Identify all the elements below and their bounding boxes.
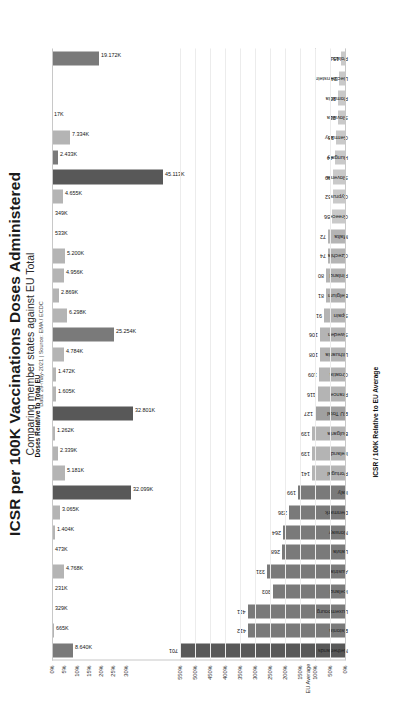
plot-left-border	[52, 659, 345, 660]
icsr-bar-cell: 49	[175, 167, 345, 187]
doses-bar[interactable]: 5.181K	[52, 465, 65, 479]
doses-bar-cell: 25.254K	[52, 325, 170, 345]
icsr-bar-cell: 236	[175, 502, 345, 522]
country-tick: Greece	[347, 206, 395, 226]
doses-bar[interactable]: 25.254K	[52, 327, 114, 341]
doses-bar-value-label: 4.768K	[66, 566, 83, 571]
doses-bar-value-label: 349K	[55, 211, 68, 216]
doses-bar-cell: 3.065K	[52, 502, 170, 522]
country-tick: France	[347, 384, 395, 404]
chart-canvas: ICSR per 100K Vaccinations Doses Adminis…	[0, 0, 420, 707]
doses-bar[interactable]: 19.172K	[52, 51, 99, 65]
doses-bar-value-label: 5.181K	[67, 467, 84, 472]
icsr-axis-tick: 100%	[312, 665, 318, 679]
doses-bar-cell: 2.433K	[52, 147, 170, 167]
doses-bar[interactable]: 2.869K	[52, 288, 59, 302]
doses-bar[interactable]: 4.768K	[52, 564, 64, 578]
doses-bar-value-label: 4.956K	[66, 270, 83, 275]
doses-bar[interactable]: 6.298K	[52, 308, 67, 322]
doses-bar-value-label: 473K	[55, 546, 68, 551]
doses-bar[interactable]: 4.956K	[52, 268, 64, 282]
country-tick: Ireland	[347, 443, 395, 463]
icsr-bar-cell: 91	[175, 305, 345, 325]
icsr-axis-tick: 250%	[267, 665, 273, 679]
country-tick: Croatia	[347, 364, 395, 384]
doses-axis-tick: 10%	[74, 665, 80, 676]
doses-bar-value-label: 6.298K	[69, 309, 86, 314]
country-tick: Slovakia	[347, 107, 395, 127]
doses-bar-value-label: 7.334K	[72, 132, 89, 137]
icsr-bar-cell: 72	[175, 226, 345, 246]
plot-top-border	[52, 48, 53, 660]
country-tick-label: Italy	[338, 489, 348, 495]
icsr-bar-value-label: 701	[169, 647, 178, 652]
doses-bar[interactable]: 32.099K	[52, 485, 131, 499]
icsr-bar-value-label: 331	[256, 569, 265, 574]
doses-bar-cell	[52, 68, 170, 88]
icsr-axis-tick: 150%	[297, 665, 303, 679]
doses-bar-cell: 665K	[52, 621, 170, 641]
icsr-bar-value-label: 268	[271, 549, 280, 554]
country-tick: Liechtenstein	[347, 68, 395, 88]
doses-bar-value-label: 8.640K	[75, 645, 92, 650]
chart-title: ICSR per 100K Vaccinations Doses Adminis…	[6, 0, 23, 707]
icsr-axis-tick: 450%	[207, 665, 213, 679]
doses-bar-cell: 8.640K	[52, 640, 170, 660]
icsr-gridline	[210, 48, 211, 660]
doses-bar-cell: 45.113K	[52, 167, 170, 187]
country-tick: Malta	[347, 226, 395, 246]
doses-bar-cell	[52, 88, 170, 108]
icsr-axis-tick: 400%	[222, 665, 228, 679]
doses-bar-value-label: 17K	[54, 112, 64, 117]
doses-bar-cell: 4.956K	[52, 265, 170, 285]
doses-bar[interactable]: 32.801K	[52, 406, 133, 420]
country-tick: Poland	[347, 48, 395, 68]
doses-axis-tick: 15%	[86, 665, 92, 676]
country-tick: Norway	[347, 522, 395, 542]
doses-bar-value-label: 4.655K	[65, 191, 82, 196]
icsr-bar-cell: 15	[175, 48, 345, 68]
icsr-axis-tick: 0%	[342, 665, 348, 673]
doses-bar-group: 8.640K665K329K231K4.768K473K1.404K3.065K…	[52, 48, 170, 660]
icsr-bar-value-label: 412	[237, 628, 246, 633]
icsr-bar-value-label: 81	[318, 292, 324, 297]
icsr-panel: 7014124113033312682642361991411391391271…	[175, 48, 345, 660]
chart-header: ICSR per 100K Vaccinations Doses Adminis…	[6, 0, 44, 707]
icsr-axis-tick: 500%	[192, 665, 198, 679]
doses-bar[interactable]: 7.334K	[52, 130, 70, 144]
doses-bar-value-label: 3.065K	[62, 507, 79, 512]
doses-bar[interactable]: 4.655K	[52, 189, 63, 203]
plot-baseline	[345, 48, 346, 660]
doses-bar[interactable]: 5.200K	[52, 248, 65, 262]
country-tick: Sweden	[347, 325, 395, 345]
doses-bar[interactable]: 4.784K	[52, 347, 64, 361]
icsr-bar-value-label: 91	[316, 312, 322, 317]
doses-axis-tick: 30%	[123, 665, 129, 676]
country-tick: Slovenia	[347, 167, 395, 187]
country-tick: Cyprus	[347, 186, 395, 206]
doses-bar[interactable]: 3.065K	[52, 505, 60, 519]
doses-axis-tick: 25%	[110, 665, 116, 676]
icsr-bar-cell: 199	[175, 482, 345, 502]
country-tick: Germany	[347, 127, 395, 147]
icsr-gridline	[330, 48, 331, 660]
chart-source-note: Data: 29-may-2021 | Source: EMA / ECDC	[38, 0, 44, 707]
icsr-axis-tick: 300%	[252, 665, 258, 679]
doses-bar-value-label: 1.404K	[57, 526, 74, 531]
doses-bar-cell: 19.172K	[52, 48, 170, 68]
icsr-bar-cell: 38	[175, 127, 345, 147]
icsr-bar-value-label: 139	[301, 430, 310, 435]
icsr-gridline	[270, 48, 271, 660]
doses-bar-value-label: 32.801K	[135, 408, 155, 413]
country-tick: Luxembourg	[347, 601, 395, 621]
icsr-bar-cell: 303	[175, 581, 345, 601]
doses-bar-cell: 1.605K	[52, 384, 170, 404]
doses-bar[interactable]: 8.640K	[52, 643, 73, 657]
doses-bar[interactable]: 45.113K	[52, 169, 163, 183]
country-tick: EU Total	[347, 403, 395, 423]
doses-bar-value-label: 25.254K	[116, 329, 136, 334]
icsr-bar-cell: 116	[175, 384, 345, 404]
icsr-bar-cell: 108	[175, 344, 345, 364]
doses-panel: 8.640K665K329K231K4.768K473K1.404K3.065K…	[52, 48, 170, 660]
doses-bar-cell: 6.298K	[52, 305, 170, 325]
